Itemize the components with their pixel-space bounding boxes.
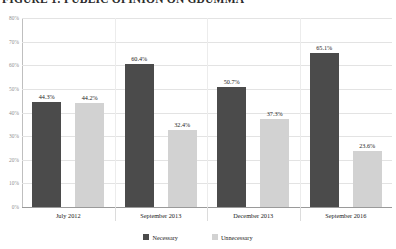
y-tick-label: 10% bbox=[0, 180, 19, 186]
chart-legend: Necessary Unnecessary bbox=[0, 231, 396, 243]
legend-swatch-necessary bbox=[143, 234, 149, 240]
category-label: September 2016 bbox=[300, 211, 393, 221]
figure-title: FIGURE 1: PUBLIC OPINION ON GDUMMA bbox=[2, 0, 302, 6]
legend-item-necessary[interactable]: Necessary bbox=[143, 234, 177, 241]
y-tick-label: 60% bbox=[0, 62, 19, 68]
legend-swatch-unnecessary bbox=[212, 234, 218, 240]
chart-area: 44.3%44.2%60.4%32.4%50.7%37.3%65.1%23.6%… bbox=[0, 14, 396, 226]
category-label: July 2012 bbox=[22, 211, 115, 221]
category-label: September 2013 bbox=[115, 211, 208, 221]
y-tick-label: 40% bbox=[0, 110, 19, 116]
y-axis-tick-labels: 80%70%60%50%40%30%20%10%0% bbox=[0, 18, 396, 208]
x-axis-category-labels: July 2012September 2013December 2013Sept… bbox=[22, 211, 392, 225]
y-tick-label: 80% bbox=[0, 15, 19, 21]
y-tick-label: 70% bbox=[0, 39, 19, 45]
y-tick-label: 0% bbox=[0, 204, 19, 210]
legend-item-unnecessary[interactable]: Unnecessary bbox=[212, 234, 253, 241]
legend-label-necessary: Necessary bbox=[152, 234, 177, 241]
category-label: December 2013 bbox=[207, 211, 300, 221]
y-tick-label: 30% bbox=[0, 133, 19, 139]
y-tick-label: 20% bbox=[0, 157, 19, 163]
y-tick-label: 50% bbox=[0, 86, 19, 92]
legend-label-unnecessary: Unnecessary bbox=[221, 234, 253, 241]
